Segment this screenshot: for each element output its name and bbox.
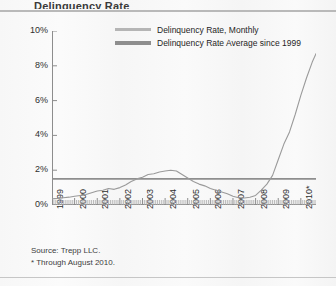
- footnote-note: * Through August 2010.: [31, 257, 291, 269]
- x-tick-marks: [52, 198, 316, 205]
- footnotes: Source: Trepp LLC. * Through August 2010…: [31, 245, 291, 269]
- bottom-divider: [0, 277, 336, 278]
- chart-figure: Delinquency Rate Delinquency Rate, Month…: [0, 0, 336, 286]
- chart-svg: [52, 31, 316, 205]
- footnote-source: Source: Trepp LLC.: [31, 245, 291, 257]
- plot-area: [52, 31, 316, 205]
- monthly-line: [52, 54, 316, 199]
